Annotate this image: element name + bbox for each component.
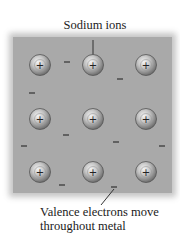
svg-text:+: + [142, 60, 150, 71]
sodium-ion: + [83, 109, 104, 130]
sodium-ion: + [83, 162, 104, 183]
svg-text:+: + [36, 167, 44, 178]
sodium-ion: + [30, 109, 51, 130]
sodium-ions-group: +++++++++ [30, 55, 157, 183]
svg-text:+: + [89, 167, 97, 178]
svg-text:+: + [142, 114, 150, 125]
sodium-ion: + [136, 162, 157, 183]
svg-text:+: + [142, 167, 150, 178]
svg-text:+: + [89, 60, 97, 71]
valence-label-line1: Valence electrons move [40, 205, 159, 219]
sodium-ion: + [30, 162, 51, 183]
valence-label-line2: throughout metal [40, 219, 159, 233]
sodium-ion: + [136, 109, 157, 130]
svg-text:+: + [36, 114, 44, 125]
sodium-ion: + [136, 55, 157, 76]
svg-text:+: + [36, 60, 44, 71]
sodium-ion: + [30, 55, 51, 76]
sodium-ion: + [83, 55, 104, 76]
electron-pointer-line [101, 189, 114, 205]
lattice-diagram: +++++++++ [0, 0, 180, 234]
svg-text:+: + [89, 114, 97, 125]
valence-electrons-label: Valence electrons move throughout metal [40, 205, 159, 233]
